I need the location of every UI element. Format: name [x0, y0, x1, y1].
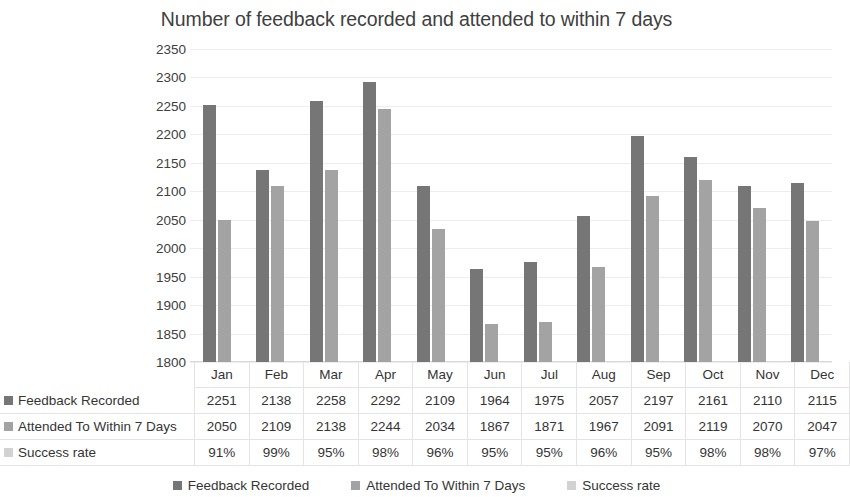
table-cell: 2292: [358, 388, 413, 414]
legend-color-swatch-icon: [173, 481, 182, 490]
bar: [470, 269, 483, 362]
table-cell: 2138: [304, 414, 359, 440]
table-row-label: Success rate: [18, 445, 96, 460]
table-header-month: Nov: [740, 362, 795, 388]
bar-group: [565, 49, 619, 362]
legend-color-swatch-icon: [567, 481, 576, 490]
bar: [539, 322, 552, 362]
table-row-label: Attended To Within 7 Days: [18, 419, 177, 434]
bar: [684, 157, 697, 362]
table-cell: 2119: [686, 414, 741, 440]
table-header-month: Feb: [249, 362, 304, 388]
bar: [325, 170, 338, 362]
legend-item[interactable]: Success rate: [567, 478, 660, 493]
legend-label: Attended To Within 7 Days: [366, 478, 525, 493]
bar: [378, 109, 391, 362]
bar-group: [190, 49, 244, 362]
y-axis-tick: 1900: [156, 298, 186, 313]
y-axis-tick: 2250: [156, 98, 186, 113]
y-axis-tick: 2200: [156, 127, 186, 142]
bar: [310, 101, 323, 362]
table-cell: 2161: [686, 388, 741, 414]
table-cell: 1871: [522, 414, 577, 440]
bar: [524, 262, 537, 362]
bar: [432, 229, 445, 362]
series-color-swatch-icon: [4, 396, 13, 405]
legend-item[interactable]: Attended To Within 7 Days: [351, 478, 525, 493]
bar: [806, 221, 819, 362]
table-cell: 98%: [686, 440, 741, 466]
table-row-months: JanFebMarAprMayJunJulAugSepOctNovDec: [0, 362, 849, 388]
bars-layer: [190, 49, 832, 362]
chart-title: Number of feedback recorded and attended…: [0, 8, 833, 31]
series-color-swatch-icon: [4, 448, 13, 457]
bar: [417, 186, 430, 362]
table-row-header: Feedback Recorded: [0, 388, 195, 414]
table-cell: 91%: [195, 440, 250, 466]
table-header-month: Aug: [577, 362, 632, 388]
table-header-month: Jul: [522, 362, 577, 388]
table-cell: 95%: [467, 440, 522, 466]
table-cell: 95%: [522, 440, 577, 466]
table-header-month: Dec: [795, 362, 850, 388]
bar-group: [779, 49, 833, 362]
table-cell: 99%: [249, 440, 304, 466]
bar: [271, 186, 284, 362]
table-cell: 2115: [795, 388, 850, 414]
bar: [256, 170, 269, 362]
bar: [646, 196, 659, 362]
legend-label: Feedback Recorded: [188, 478, 310, 493]
table-cell: 2110: [740, 388, 795, 414]
data-table-body: JanFebMarAprMayJunJulAugSepOctNovDecFeed…: [0, 362, 849, 466]
table-cell: 2050: [195, 414, 250, 440]
table-row-header-inner: Feedback Recorded: [4, 393, 194, 408]
bar-group: [351, 49, 405, 362]
table-cell: 98%: [358, 440, 413, 466]
table-cell: 2047: [795, 414, 850, 440]
bar: [753, 208, 766, 362]
bar: [363, 82, 376, 362]
y-axis-tick: 2350: [156, 42, 186, 57]
table-cell: 96%: [577, 440, 632, 466]
legend-item[interactable]: Feedback Recorded: [173, 478, 310, 493]
table-header-month: May: [413, 362, 468, 388]
bar: [592, 267, 605, 362]
chart-legend: Feedback RecordedAttended To Within 7 Da…: [0, 478, 833, 493]
plot-area: [190, 49, 832, 362]
table-corner-cell: [0, 362, 195, 388]
table-cell: 2057: [577, 388, 632, 414]
table-cell: 1975: [522, 388, 577, 414]
y-axis-tick: 1850: [156, 326, 186, 341]
table-cell: 95%: [631, 440, 686, 466]
table-row-header-inner: Attended To Within 7 Days: [4, 419, 194, 434]
bar-group: [404, 49, 458, 362]
table-row-header: Attended To Within 7 Days: [0, 414, 195, 440]
legend-label: Success rate: [582, 478, 660, 493]
y-axis-tick: 2150: [156, 155, 186, 170]
bar-group: [618, 49, 672, 362]
table-cell: 2258: [304, 388, 359, 414]
table-cell: 2070: [740, 414, 795, 440]
bar: [577, 216, 590, 362]
table-row: Attended To Within 7 Days205021092138224…: [0, 414, 849, 440]
bar-group: [511, 49, 565, 362]
table-row: Feedback Recorded22512138225822922109196…: [0, 388, 849, 414]
bar: [791, 183, 804, 362]
bar-group: [458, 49, 512, 362]
y-axis-tick: 2300: [156, 70, 186, 85]
table-cell: 98%: [740, 440, 795, 466]
table-cell: 2109: [413, 388, 468, 414]
table-cell: 2091: [631, 414, 686, 440]
y-axis-tick: 2050: [156, 212, 186, 227]
y-axis-tick: 2100: [156, 184, 186, 199]
y-axis: 2350230022502200215021002050200019501900…: [130, 49, 186, 362]
table-cell: 1867: [467, 414, 522, 440]
bar-group: [725, 49, 779, 362]
data-table: JanFebMarAprMayJunJulAugSepOctNovDecFeed…: [0, 362, 850, 466]
table-cell: 1964: [467, 388, 522, 414]
bar: [699, 180, 712, 362]
table-cell: 97%: [795, 440, 850, 466]
table-header-month: Oct: [686, 362, 741, 388]
table-header-month: Sep: [631, 362, 686, 388]
table-header-month: Jun: [467, 362, 522, 388]
